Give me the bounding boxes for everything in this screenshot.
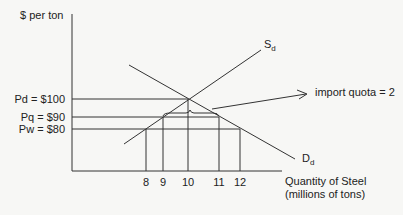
price-label-pw: Pw = $80 <box>19 123 65 135</box>
x-tick-11: 11 <box>213 176 224 188</box>
x-tick-12: 12 <box>234 176 246 188</box>
demand-label: Dd <box>302 152 314 167</box>
x-axis-label: Quantity of Steel <box>285 175 366 187</box>
x-tick-8: 8 <box>143 176 149 188</box>
import-quota-label: import quota = 2 <box>315 86 395 98</box>
price-label-pq: Pq = $90 <box>21 111 65 123</box>
y-axis-label: $ per ton <box>20 9 63 21</box>
demand-curve <box>129 65 295 159</box>
price-label-pd: Pd = $100 <box>15 93 65 105</box>
supply-demand-chart: $ per ton Pd = $100 Pq = $90 Pw = $80 8 … <box>0 0 403 215</box>
x-axis-sublabel: (millions of tons) <box>285 188 365 200</box>
supply-label: Sd <box>264 38 276 53</box>
x-tick-10: 10 <box>182 176 194 188</box>
x-tick-9: 9 <box>160 176 166 188</box>
quota-arrow <box>212 94 306 109</box>
